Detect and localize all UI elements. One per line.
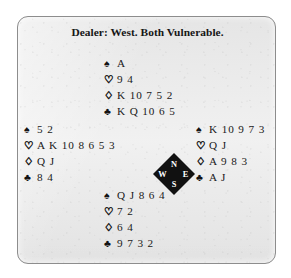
diamond-icon: ♢ xyxy=(104,220,117,236)
south-clubs-cards: 9 7 3 2 xyxy=(117,235,154,251)
east-hearts-line: ♡ Q J xyxy=(196,137,265,153)
east-hearts-cards: Q J xyxy=(209,137,227,153)
east-spades-line: ♠ K 10 9 7 3 xyxy=(196,121,265,137)
north-hearts-line: ♡ 9 4 xyxy=(104,71,176,87)
north-hearts-cards: 9 4 xyxy=(117,71,134,87)
west-diamonds-cards: Q J xyxy=(37,153,55,169)
hand-east: ♠ K 10 9 7 3 ♡ Q J ♢ A 9 8 3 ♣ A J xyxy=(196,121,265,185)
heart-icon: ♡ xyxy=(104,204,117,220)
compass-label-north: N xyxy=(171,160,177,169)
compass-label-south: S xyxy=(172,180,177,189)
diamond-icon: ♢ xyxy=(196,154,209,170)
compass-label-west: W xyxy=(158,170,167,179)
diagram-frame: Dealer: West. Both Vulnerable. ♠ A ♡ 9 4… xyxy=(17,16,276,264)
club-icon: ♣ xyxy=(104,104,117,120)
spade-icon: ♠ xyxy=(196,122,209,138)
west-hearts-cards: A K 10 8 6 5 3 xyxy=(37,137,115,153)
east-diamonds-line: ♢ A 9 8 3 xyxy=(196,153,265,169)
north-spades-cards: A xyxy=(117,55,126,71)
club-icon: ♣ xyxy=(104,236,117,252)
east-clubs-cards: A J xyxy=(209,169,226,185)
east-diamonds-cards: A 9 8 3 xyxy=(209,153,248,169)
east-spades-cards: K 10 9 7 3 xyxy=(209,121,265,137)
compass-label-east: E xyxy=(183,170,189,179)
hand-west: ♠ 5 2 ♡ A K 10 8 6 5 3 ♢ Q J ♣ 8 4 xyxy=(24,121,115,185)
club-icon: ♣ xyxy=(196,170,209,186)
north-spades-line: ♠ A xyxy=(104,55,176,71)
diamond-icon: ♢ xyxy=(24,154,37,170)
hand-north: ♠ A ♡ 9 4 ♢ K 10 7 5 2 ♣ K Q 10 6 5 xyxy=(104,55,176,119)
south-hearts-cards: 7 2 xyxy=(117,203,134,219)
heart-icon: ♡ xyxy=(24,138,37,154)
heart-icon: ♡ xyxy=(196,138,209,154)
north-clubs-line: ♣ K Q 10 6 5 xyxy=(104,103,176,119)
west-diamonds-line: ♢ Q J xyxy=(24,153,115,169)
east-clubs-line: ♣ A J xyxy=(196,169,265,185)
heart-icon: ♡ xyxy=(104,72,117,88)
spade-icon: ♠ xyxy=(104,188,117,204)
west-clubs-cards: 8 4 xyxy=(37,169,54,185)
south-diamonds-cards: 6 4 xyxy=(117,219,134,235)
south-hearts-line: ♡ 7 2 xyxy=(104,203,166,219)
north-clubs-cards: K Q 10 6 5 xyxy=(117,103,176,119)
bridge-deal-diagram: Dealer: West. Both Vulnerable. ♠ A ♡ 9 4… xyxy=(0,0,291,278)
diamond-icon: ♢ xyxy=(104,88,117,104)
west-spades-line: ♠ 5 2 xyxy=(24,121,115,137)
south-diamonds-line: ♢ 6 4 xyxy=(104,219,166,235)
hand-south: ♠ Q J 8 6 4 ♡ 7 2 ♢ 6 4 ♣ 9 7 3 2 xyxy=(104,187,166,251)
north-diamonds-cards: K 10 7 5 2 xyxy=(117,87,173,103)
west-hearts-line: ♡ A K 10 8 6 5 3 xyxy=(24,137,115,153)
compass-diamond-icon: N W E S xyxy=(152,152,196,196)
club-icon: ♣ xyxy=(24,170,37,186)
north-diamonds-line: ♢ K 10 7 5 2 xyxy=(104,87,176,103)
south-clubs-line: ♣ 9 7 3 2 xyxy=(104,235,166,251)
spade-icon: ♠ xyxy=(104,56,117,72)
compass-rose: N W E S xyxy=(152,152,196,196)
spade-icon: ♠ xyxy=(24,122,37,138)
west-clubs-line: ♣ 8 4 xyxy=(24,169,115,185)
deal-title: Dealer: West. Both Vulnerable. xyxy=(18,26,276,38)
west-spades-cards: 5 2 xyxy=(37,121,54,137)
